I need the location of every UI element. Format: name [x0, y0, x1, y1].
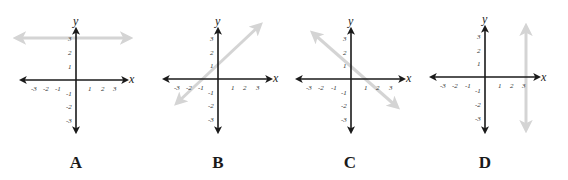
tick-label: 1	[498, 82, 502, 90]
tick-label: -2	[452, 82, 458, 90]
tick-label: -3	[306, 84, 312, 92]
tick-label: 3	[67, 35, 72, 43]
y-axis-label: y	[72, 14, 79, 28]
x-axis-label: x	[128, 72, 135, 86]
tick-label: -1	[341, 89, 347, 97]
panel-a: x y -3 -2 -1 1 2 3 3 2 1 -1 -2 -3 A	[18, 14, 135, 172]
tick-label: 1	[231, 84, 235, 92]
tick-label: 2	[68, 49, 72, 57]
tick-label: 2	[477, 47, 481, 55]
x-tick-labels: -3 -2 -1 1 2 3	[31, 85, 117, 93]
x-tick-labels: -3 -2 -1 1 2 3	[440, 82, 526, 90]
panel-label-b: B	[212, 153, 223, 172]
tick-label: 2	[510, 82, 514, 90]
x-tick-labels: -3 -2 -1 1 2 3	[174, 84, 260, 92]
panel-label-c: C	[344, 153, 356, 172]
tick-label: -1	[55, 85, 61, 93]
tick-label: -1	[198, 84, 204, 92]
tick-label: 1	[88, 85, 92, 93]
tick-label: -1	[465, 82, 471, 90]
tick-label: -2	[318, 84, 324, 92]
tick-label: -3	[174, 84, 180, 92]
tick-label: 2	[376, 84, 380, 92]
tick-label: -3	[440, 82, 446, 90]
tick-label: 1	[364, 84, 368, 92]
tick-label: 2	[101, 85, 105, 93]
tick-label: -3	[341, 116, 347, 124]
y-axis-label: y	[481, 12, 488, 26]
panel-c: x y -3 -2 -1 1 2 3 3 2 1 -1 -2 -3 C	[298, 14, 412, 172]
tick-label: -3	[66, 117, 72, 125]
tick-label: -2	[341, 102, 347, 110]
tick-label: -2	[186, 84, 192, 92]
x-axis-label: x	[272, 71, 279, 85]
y-axis-label: y	[347, 14, 354, 28]
panel-label-a: A	[70, 153, 83, 172]
tick-label: -3	[208, 116, 214, 124]
panel-b: x y -3 -2 -1 1 2 3 3 2 1 -1 -2 -3 B	[165, 14, 279, 172]
x-axis-label: x	[540, 70, 547, 84]
tick-label: -1	[208, 89, 214, 97]
tick-label: 2	[343, 49, 347, 57]
tick-label: 2	[210, 49, 214, 57]
tick-label: -1	[66, 90, 72, 98]
tick-label: -2	[208, 102, 214, 110]
tick-label: -2	[66, 103, 72, 111]
tick-label: 1	[343, 62, 347, 70]
tick-label: -1	[475, 87, 481, 95]
tick-label: -2	[475, 101, 481, 109]
graphs-figure: x y -3 -2 -1 1 2 3 3 2 1 -1 -2 -3 A x y …	[0, 0, 568, 180]
tick-label: -3	[31, 85, 37, 93]
tick-label: 1	[68, 63, 72, 71]
tick-label: -1	[331, 84, 337, 92]
y-tick-labels: 3 2 1 -1 -2 -3	[475, 33, 481, 123]
tick-label: -3	[475, 115, 481, 123]
panel-d: x y -3 -2 -1 1 2 3 3 2 1 -1 -2 -3 D	[432, 12, 547, 172]
tick-label: 3	[112, 85, 117, 93]
tick-label: 1	[477, 60, 481, 68]
tick-label: 3	[342, 35, 347, 43]
tick-label: -2	[43, 85, 49, 93]
tick-label: 3	[209, 35, 214, 43]
x-axis-label: x	[405, 71, 412, 85]
tick-label: 3	[388, 84, 393, 92]
line-c-negative-slope	[314, 34, 396, 106]
panel-label-d: D	[479, 153, 491, 172]
tick-label: 3	[476, 33, 481, 41]
tick-label: 2	[243, 84, 247, 92]
tick-label: 3	[521, 82, 526, 90]
tick-label: 1	[210, 62, 214, 70]
y-axis-label: y	[214, 14, 221, 28]
tick-label: 3	[255, 84, 260, 92]
